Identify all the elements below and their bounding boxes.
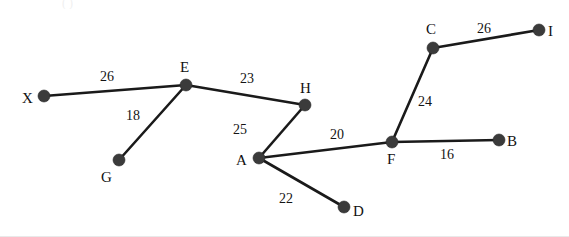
node-label-b: B <box>507 134 517 149</box>
graph-edge-a-f <box>259 142 392 158</box>
graph-node-e[interactable] <box>180 79 192 91</box>
graph-edge-h-a <box>259 105 305 158</box>
graph-node-h[interactable] <box>299 99 311 111</box>
graph-figure: ( ) 261823252022162426XEGHADFBCI <box>0 0 569 237</box>
nodes-group <box>38 24 545 213</box>
edge-weight-x-e: 26 <box>100 70 114 84</box>
graph-node-g[interactable] <box>113 154 125 166</box>
node-label-f: F <box>387 152 395 167</box>
node-label-a: A <box>236 153 247 168</box>
graph-node-i[interactable] <box>533 24 545 36</box>
graph-edge-x-e <box>44 85 186 96</box>
graph-node-a[interactable] <box>253 152 265 164</box>
node-label-c: C <box>426 22 436 37</box>
graph-edge-a-d <box>259 158 344 207</box>
node-label-g: G <box>101 170 112 185</box>
edge-weight-h-a: 25 <box>233 123 247 137</box>
node-label-h: H <box>300 81 311 96</box>
node-label-d: D <box>353 204 364 219</box>
edge-weight-e-g: 18 <box>126 109 140 123</box>
edge-weight-f-c: 24 <box>418 95 432 109</box>
graph-edge-f-b <box>392 140 499 142</box>
graph-edge-e-h <box>186 85 305 105</box>
node-label-x: X <box>22 91 33 106</box>
edge-weight-a-f: 20 <box>330 128 344 142</box>
edge-weight-e-h: 23 <box>240 72 254 86</box>
edge-weight-f-b: 16 <box>440 148 454 162</box>
edge-weight-c-i: 26 <box>477 22 491 36</box>
graph-node-c[interactable] <box>427 42 439 54</box>
edges-group <box>44 30 539 207</box>
graph-node-f[interactable] <box>386 136 398 148</box>
graph-node-x[interactable] <box>38 90 50 102</box>
bottom-divider <box>0 236 569 237</box>
graph-node-d[interactable] <box>338 201 350 213</box>
edge-weight-a-d: 22 <box>279 192 293 206</box>
node-label-i: I <box>548 24 553 39</box>
graph-node-b[interactable] <box>493 134 505 146</box>
node-label-e: E <box>180 60 189 75</box>
